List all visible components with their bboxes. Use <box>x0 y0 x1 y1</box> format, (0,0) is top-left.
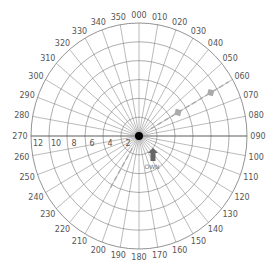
range-label-6: 6 <box>89 139 94 148</box>
bearing-label-160: 160 <box>172 246 187 255</box>
bearing-label-060: 060 <box>234 72 249 81</box>
bearing-label-280: 280 <box>14 111 29 120</box>
position-marker-icon <box>207 89 214 96</box>
bearing-label-190: 190 <box>111 251 126 260</box>
bearing-label-000: 000 <box>131 11 146 20</box>
range-label-10: 10 <box>51 139 61 148</box>
bearing-label-140: 140 <box>208 225 223 234</box>
bearing-label-260: 260 <box>14 153 29 162</box>
bearing-label-090: 090 <box>250 132 265 141</box>
bearing-label-230: 230 <box>40 210 55 219</box>
own-ship-label: OWN <box>144 163 159 170</box>
bearing-label-170: 170 <box>152 251 167 260</box>
bearing-label-080: 080 <box>249 111 264 120</box>
maneuvering-board: 0000100200300400500600700800901001101201… <box>0 0 280 270</box>
own-ship-arrow-icon <box>148 148 158 161</box>
bearing-label-050: 050 <box>223 54 238 63</box>
bearing-label-200: 200 <box>91 246 106 255</box>
bearing-label-070: 070 <box>243 91 258 100</box>
range-label-8: 8 <box>71 139 76 148</box>
range-label-2: 2 <box>125 139 130 148</box>
bearing-label-030: 030 <box>191 27 206 36</box>
bearing-label-310: 310 <box>40 54 55 63</box>
bearing-label-110: 110 <box>243 173 258 182</box>
bearing-label-250: 250 <box>20 173 35 182</box>
bearing-label-130: 130 <box>223 210 238 219</box>
bearing-label-010: 010 <box>152 13 167 22</box>
bearing-label-220: 220 <box>55 225 70 234</box>
bearing-label-320: 320 <box>55 39 70 48</box>
range-label-12: 12 <box>33 139 43 148</box>
bearing-label-340: 340 <box>91 18 106 27</box>
bearing-label-180: 180 <box>131 253 146 262</box>
bearing-label-290: 290 <box>20 91 35 100</box>
bearing-label-270: 270 <box>12 132 27 141</box>
bearing-label-210: 210 <box>72 237 87 246</box>
bearing-label-120: 120 <box>234 193 249 202</box>
position-marker-icon <box>174 109 181 116</box>
bearing-label-350: 350 <box>111 13 126 22</box>
bearing-label-020: 020 <box>172 18 187 27</box>
bearing-label-330: 330 <box>72 27 87 36</box>
center-dot <box>135 132 143 140</box>
bearing-label-040: 040 <box>208 39 223 48</box>
bearing-label-300: 300 <box>28 72 43 81</box>
bearing-label-100: 100 <box>249 153 264 162</box>
bearing-label-240: 240 <box>28 193 43 202</box>
bearing-label-150: 150 <box>191 237 206 246</box>
range-label-4: 4 <box>107 139 112 148</box>
